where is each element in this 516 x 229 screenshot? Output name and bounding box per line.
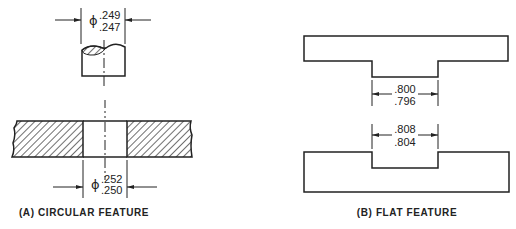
caption-flat-feature: (B) FLAT FEATURE [357,207,457,218]
caption-circular-feature: (A) CIRCULAR FEATURE [19,207,149,218]
slot-lower-limit: .804 [394,136,415,148]
tab-upper-limit: .800 [394,83,415,95]
tolerance-drawing: ϕ .249 .247 ϕ .252 .250 (A) CIRCULAR FEA… [0,0,516,229]
hole-lower-limit: .250 [101,184,122,196]
tab-lower-limit: .796 [394,95,415,107]
pin-diameter-symbol: ϕ [89,13,98,28]
hole-diameter-symbol: ϕ [91,177,100,192]
pin-upper-limit: .249 [99,9,120,21]
pin-lower-limit: .247 [99,21,120,33]
slot-upper-limit: .808 [394,123,415,135]
